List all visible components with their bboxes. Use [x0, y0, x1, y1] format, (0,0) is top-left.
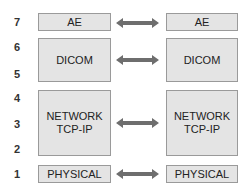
right-physical-box: PHYSICAL [166, 165, 238, 183]
right-dicom-box: DICOM [166, 38, 238, 82]
left-physical-box: PHYSICAL [38, 165, 111, 183]
ae-double-arrow-icon [116, 18, 159, 28]
left-ae-label: AE [67, 16, 82, 29]
left-network-box: NETWORK TCP-IP [38, 90, 111, 156]
right-network-box: NETWORK TCP-IP [166, 90, 238, 156]
left-ae-box: AE [38, 13, 111, 31]
right-ae-label: AE [195, 16, 210, 29]
physical-double-arrow-icon [116, 169, 159, 179]
layer-number-3: 3 [11, 118, 23, 130]
left-network-label: NETWORK [46, 110, 102, 123]
left-physical-label: PHYSICAL [47, 168, 101, 181]
layer-number-4: 4 [11, 92, 23, 104]
right-dicom-label: DICOM [184, 54, 221, 67]
layer-number-6: 6 [11, 41, 23, 53]
layer-number-7: 7 [11, 16, 23, 28]
left-tcpip-label: TCP-IP [56, 123, 92, 136]
right-ae-box: AE [166, 13, 238, 31]
right-network-label: NETWORK [174, 110, 230, 123]
layer-number-2: 2 [11, 143, 23, 155]
dicom-double-arrow-icon [116, 55, 159, 65]
left-dicom-label: DICOM [56, 54, 93, 67]
left-dicom-box: DICOM [38, 38, 111, 82]
network-double-arrow-icon [116, 118, 159, 128]
right-tcpip-label: TCP-IP [184, 123, 220, 136]
right-physical-label: PHYSICAL [175, 168, 229, 181]
layer-number-1: 1 [11, 168, 23, 180]
layer-number-5: 5 [11, 68, 23, 80]
